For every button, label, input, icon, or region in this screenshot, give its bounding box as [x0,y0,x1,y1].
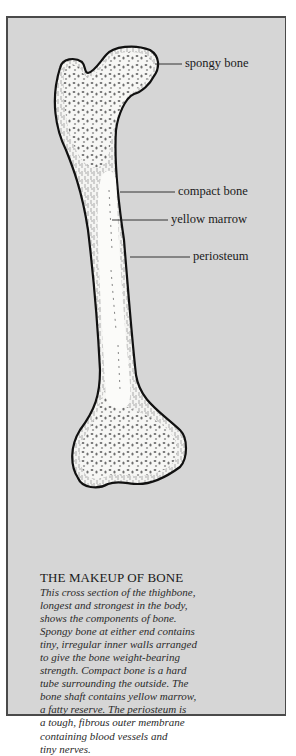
label-spongy-bone: spongy bone [185,56,249,71]
caption-line: tiny, irregular inner walls arranged [40,638,240,651]
caption-body: This cross section of the thighbone, lon… [40,586,240,756]
caption-line: shows the components of bone. [40,612,240,625]
caption-line: longest and strongest in the body, [40,599,240,612]
caption-line: strength. Compact bone is a hard [40,664,240,677]
label-periosteum: periosteum [193,249,249,264]
label-compact-bone: compact bone [178,184,248,199]
caption-line: to give the bone weight-bearing [40,651,240,664]
caption-line: This cross section of the thighbone, [40,586,240,599]
caption-line: containing blood vessels and [40,730,240,743]
caption-line: a fatty reserve. The periosteum is [40,703,240,716]
caption-line: bone shaft contains yellow marrow, [40,690,240,703]
caption-line: tiny nerves. [40,743,240,756]
caption-title: THE MAKEUP OF BONE [40,570,183,586]
caption-line: a tough, fibrous outer membrane [40,716,240,729]
caption-line: tube surrounding the outside. The [40,677,240,690]
caption-line: Spongy bone at either end contains [40,625,240,638]
spongy-bone-head [64,52,153,168]
label-yellow-marrow: yellow marrow [171,212,247,227]
